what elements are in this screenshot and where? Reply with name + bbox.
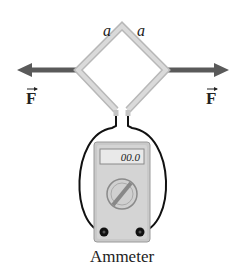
side-label-left: a [103,22,111,39]
svg-text:F: F [26,89,36,108]
svg-text:F: F [206,89,216,108]
diagram-canvas: a a F F 00.0 Ammeter [0,0,250,272]
force-label-left: F [26,87,38,108]
force-label-right: F [206,87,218,108]
side-label-right: a [137,22,145,39]
wire-loop [78,26,166,116]
force-arrow-left [17,63,76,77]
force-arrow-right [168,63,229,77]
meter-reading: 00.0 [121,151,141,163]
ammeter-label: Ammeter [90,247,155,266]
